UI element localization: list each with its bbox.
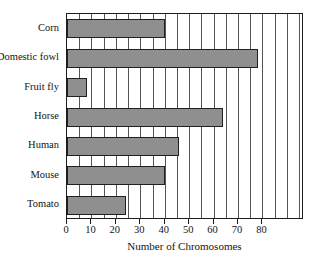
- bar: [67, 137, 179, 156]
- x-tick-label: 20: [110, 224, 121, 236]
- bar: [67, 108, 223, 127]
- bar: [67, 49, 258, 68]
- bar-series: [67, 14, 302, 218]
- x-tick-label: 40: [158, 224, 169, 236]
- category-label: Domestic fowl: [0, 51, 59, 62]
- x-tick-label: 80: [256, 224, 267, 236]
- x-tick-label: 0: [63, 224, 68, 236]
- category-axis-labels: CornDomestic fowlFruit flyHorseHumanMous…: [0, 13, 62, 219]
- bar: [67, 166, 165, 185]
- bar: [67, 19, 165, 38]
- chromosome-bar-chart: ㅡ CornDomestic fowlFruit flyHorseHumanMo…: [0, 0, 330, 262]
- category-label: Corn: [38, 22, 59, 33]
- chart-title-clipped: ㅡ: [0, 0, 330, 1]
- category-label: Tomato: [27, 198, 59, 209]
- x-tick-label: 60: [207, 224, 218, 236]
- category-label: Human: [28, 139, 59, 150]
- x-tick-label: 30: [134, 224, 145, 236]
- x-axis-title: Number of Chromosomes: [66, 240, 303, 252]
- bar: [67, 78, 87, 97]
- category-label: Fruit fly: [24, 81, 59, 92]
- x-tick-label: 50: [183, 224, 194, 236]
- category-label: Mouse: [30, 169, 59, 180]
- x-axis-tick-labels: 01020304050607080: [0, 224, 330, 238]
- category-label: Horse: [34, 110, 59, 121]
- bar: [67, 196, 126, 215]
- x-tick-label: 10: [85, 224, 96, 236]
- plot-area: [66, 13, 303, 219]
- x-tick-label: 70: [232, 224, 243, 236]
